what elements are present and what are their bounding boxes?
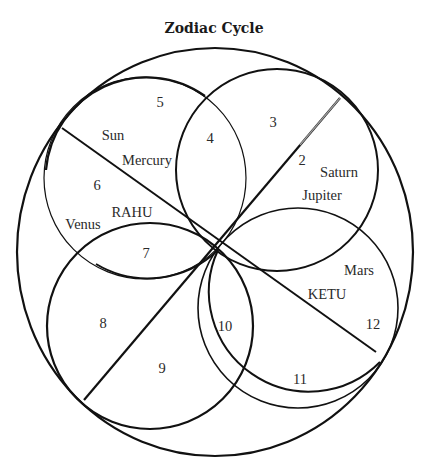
- house-4: 4: [206, 130, 214, 146]
- axis-tip-ne: [300, 98, 340, 145]
- planet-mercury: Mercury: [122, 152, 173, 168]
- planet-jupiter: Jupiter: [302, 187, 342, 203]
- node-ketu: KETU: [308, 286, 347, 302]
- house-8: 8: [99, 315, 106, 331]
- zodiac-cycle-diagram: Zodiac Cycle 5 4 3 2 6 7 8 10 9 11 12 Su…: [0, 0, 429, 472]
- planet-mars: Mars: [344, 262, 374, 278]
- house-3: 3: [269, 114, 276, 130]
- house-7: 7: [142, 245, 149, 261]
- planet-saturn: Saturn: [320, 164, 359, 180]
- house-2: 2: [298, 152, 305, 168]
- house-12: 12: [366, 316, 381, 332]
- diagram-title: Zodiac Cycle: [164, 20, 263, 36]
- house-6: 6: [93, 177, 100, 193]
- planet-venus: Venus: [65, 216, 101, 232]
- house-10: 10: [218, 318, 233, 334]
- planet-sun: Sun: [102, 127, 125, 143]
- house-11: 11: [293, 371, 307, 387]
- house-5: 5: [156, 94, 163, 110]
- house-9: 9: [158, 360, 165, 376]
- node-rahu: RAHU: [111, 204, 153, 220]
